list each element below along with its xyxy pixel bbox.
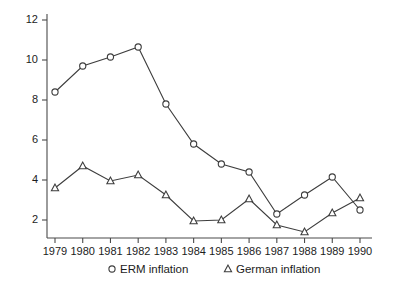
x-tick-label: 1979 [43,245,67,257]
data-point-circle[interactable] [107,54,113,60]
data-point-circle[interactable] [163,101,169,107]
data-point-circle[interactable] [329,174,335,180]
y-tick-label: 12 [26,13,38,25]
data-point-circle[interactable] [191,141,197,147]
data-point-triangle[interactable] [51,184,58,191]
x-tick-label: 1984 [181,245,205,257]
data-point-triangle[interactable] [79,162,86,169]
data-point-circle[interactable] [80,63,86,69]
x-tick-label: 1989 [320,245,344,257]
x-tick-label: 1987 [265,245,289,257]
x-tick-label: 1981 [98,245,122,257]
y-axis: 24681012 [26,13,47,238]
data-point-triangle[interactable] [218,216,225,223]
data-point-circle[interactable] [218,161,224,167]
data-point-circle[interactable] [135,44,141,50]
y-tick-label: 10 [26,53,38,65]
data-point-circle[interactable] [52,89,58,95]
x-tick-label: 1988 [292,245,316,257]
data-point-triangle[interactable] [329,209,336,216]
legend-label: ERM inflation [120,263,188,275]
y-tick-label: 8 [32,93,38,105]
series-line-erm-inflation [55,47,360,214]
chart-legend: ERM inflationGerman inflation [109,263,320,275]
series-layer [51,44,363,235]
line-chart: 24681012 1979198019811982198319841985198… [0,0,398,288]
data-point-circle[interactable] [246,169,252,175]
data-point-triangle[interactable] [135,171,142,178]
data-point-circle[interactable] [274,211,280,217]
y-tick-label: 6 [32,133,38,145]
y-tick-label: 4 [32,173,38,185]
x-tick-label: 1985 [209,245,233,257]
chart-container: 24681012 1979198019811982198319841985198… [0,0,398,288]
data-point-triangle[interactable] [356,194,363,201]
x-tick-label: 1990 [348,245,372,257]
x-tick-label: 1982 [126,245,150,257]
data-point-circle[interactable] [357,207,363,213]
legend-marker-triangle [224,265,231,272]
data-point-triangle[interactable] [162,191,169,198]
legend-label: German inflation [236,263,320,275]
data-point-circle[interactable] [301,192,307,198]
x-tick-label: 1983 [154,245,178,257]
data-point-triangle[interactable] [246,195,253,202]
y-tick-label: 2 [32,213,38,225]
x-tick-label: 1980 [70,245,94,257]
x-tick-label: 1986 [237,245,261,257]
x-axis: 1979198019811982198319841985198619871988… [43,238,372,257]
series-line-german-inflation [55,166,360,232]
legend-marker-circle [109,266,115,272]
